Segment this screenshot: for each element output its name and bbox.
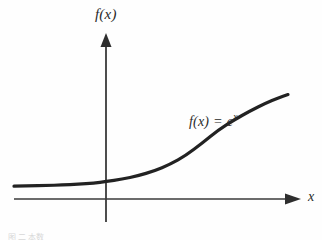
x-axis-arrowhead-icon — [285, 193, 301, 204]
x-axis-label: x — [308, 190, 314, 204]
equation-lhs: f(x) — [189, 114, 209, 129]
curve-equation-label: f(x) = ex — [189, 113, 238, 129]
caption-fragment: 图 二 本数 — [8, 231, 128, 240]
exponential-function-figure: f(x) x f(x) = ex 图 二 本数 — [0, 0, 322, 240]
exponential-curve — [14, 95, 288, 187]
plot-canvas — [0, 0, 322, 240]
equation-operator: = — [209, 114, 227, 129]
equation-exponent: x — [233, 112, 237, 122]
y-axis-label: f(x) — [95, 7, 117, 22]
y-axis-arrowhead-icon — [101, 33, 112, 47]
